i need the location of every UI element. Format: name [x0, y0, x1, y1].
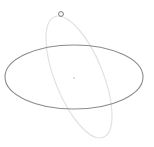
gizmo-svg — [0, 0, 154, 147]
rotation-gizmo-canvas[interactable] — [0, 0, 154, 147]
center-pivot-dot — [73, 77, 75, 79]
rotation-handle-icon[interactable] — [59, 12, 64, 17]
tilted-rotation-ring[interactable] — [32, 8, 125, 147]
